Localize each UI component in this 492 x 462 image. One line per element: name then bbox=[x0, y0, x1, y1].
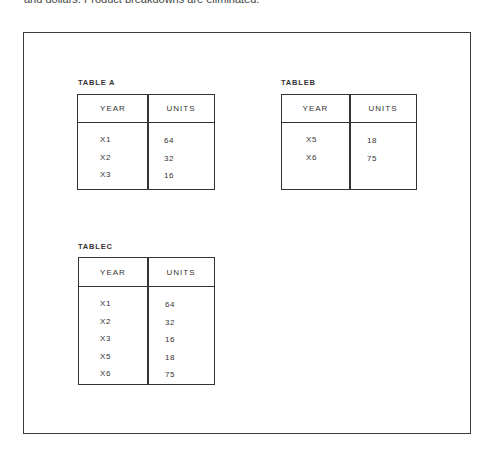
cell-year: X6 bbox=[100, 369, 111, 378]
column-header-units: UNITS bbox=[148, 95, 214, 122]
cell-units: 32 bbox=[165, 318, 175, 327]
cell-units: 32 bbox=[164, 154, 174, 163]
cell-units: 18 bbox=[165, 353, 175, 362]
table-c-label: TABLEC bbox=[78, 242, 113, 251]
intro-text: and dollars. Product breakdowns are elim… bbox=[24, 0, 259, 5]
table-b-label: TABLEB bbox=[281, 78, 316, 87]
table-a: YEAR UNITS X164X232X316 bbox=[77, 94, 215, 190]
table-a-label: TABLE A bbox=[78, 78, 115, 87]
cell-units: 16 bbox=[164, 171, 174, 180]
cell-year: X5 bbox=[306, 135, 317, 144]
table-header: YEAR UNITS bbox=[78, 95, 214, 123]
table-b: YEAR UNITS X518X675 bbox=[281, 94, 417, 190]
table-c: YEAR UNITS X164X232X316X518X675 bbox=[78, 257, 215, 385]
cell-year: X1 bbox=[100, 135, 111, 144]
column-header-year: YEAR bbox=[79, 258, 147, 286]
cell-units: 16 bbox=[165, 335, 175, 344]
cell-units: 75 bbox=[165, 370, 175, 379]
cell-units: 64 bbox=[164, 136, 174, 145]
cell-year: X3 bbox=[100, 170, 111, 179]
column-divider bbox=[147, 258, 149, 384]
cell-year: X5 bbox=[100, 352, 111, 361]
column-header-year: YEAR bbox=[78, 95, 148, 122]
cell-year: X2 bbox=[100, 153, 111, 162]
column-header-units: UNITS bbox=[350, 95, 416, 122]
cell-units: 18 bbox=[367, 136, 377, 145]
column-header-units: UNITS bbox=[148, 258, 214, 286]
column-divider bbox=[147, 95, 149, 189]
cell-year: X2 bbox=[100, 317, 111, 326]
cell-units: 75 bbox=[367, 154, 377, 163]
column-header-year: YEAR bbox=[282, 95, 349, 122]
cell-year: X6 bbox=[306, 153, 317, 162]
cell-year: X1 bbox=[100, 299, 111, 308]
column-divider bbox=[349, 95, 351, 189]
cell-units: 64 bbox=[165, 300, 175, 309]
cell-year: X3 bbox=[100, 334, 111, 343]
